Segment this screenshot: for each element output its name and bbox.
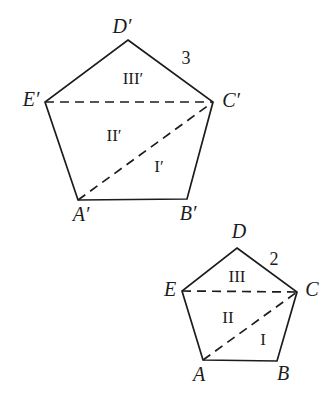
vertex-label-C: C (305, 278, 319, 300)
vertex-label-A: A (191, 363, 206, 385)
region-label-III-prime: III′ (123, 69, 144, 88)
vertex-label-B-prime: B′ (180, 202, 197, 224)
vertex-label-D-prime: D′ (112, 15, 132, 37)
side-length-label-2: 2 (270, 249, 279, 269)
region-label-I: I (260, 330, 266, 349)
vertex-label-E: E (163, 278, 176, 300)
figure-canvas: D′E′C′A′B′3III′II′I′DECAB2IIIIII (0, 0, 329, 402)
vertex-label-E-prime: E′ (22, 88, 40, 110)
region-label-II: II (222, 308, 234, 327)
region-label-I-prime: I′ (154, 157, 163, 176)
dashed-diagonal-A-prime-C-prime (78, 102, 213, 200)
dashed-diagonal-E-C (182, 291, 297, 292)
vertex-label-C-prime: C′ (222, 89, 240, 111)
similar-pentagons-figure: D′E′C′A′B′3III′II′I′DECAB2IIIIII (0, 0, 329, 402)
dashed-diagonal-A-C (203, 292, 297, 360)
region-label-II-prime: II′ (106, 126, 121, 145)
vertex-label-B: B (277, 362, 289, 384)
region-label-III: III (229, 267, 246, 286)
vertex-label-D: D (231, 220, 247, 242)
vertex-label-A-prime: A′ (71, 203, 90, 225)
side-length-label-3: 3 (182, 48, 191, 68)
